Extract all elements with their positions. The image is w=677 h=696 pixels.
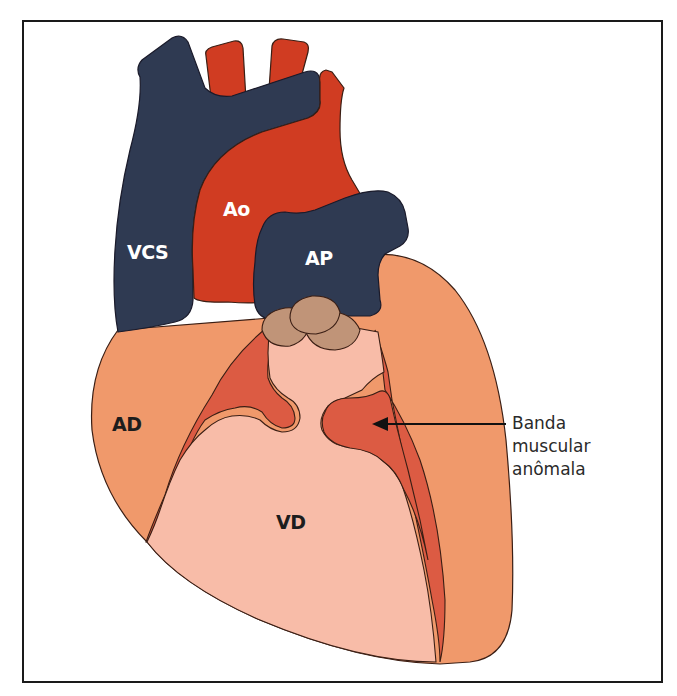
- label-ap: AP: [305, 249, 333, 268]
- callout-text: Banda muscular anômala: [512, 412, 622, 481]
- label-ad: AD: [112, 415, 141, 434]
- callout-line-1: Banda: [512, 412, 622, 435]
- callout-line-2: muscular: [512, 435, 622, 458]
- label-ao: Ao: [223, 200, 250, 219]
- label-vcs: VCS: [127, 243, 168, 262]
- label-vd: VD: [276, 513, 305, 532]
- callout-line-3: anômala: [512, 458, 622, 481]
- heart-diagram: [0, 0, 677, 696]
